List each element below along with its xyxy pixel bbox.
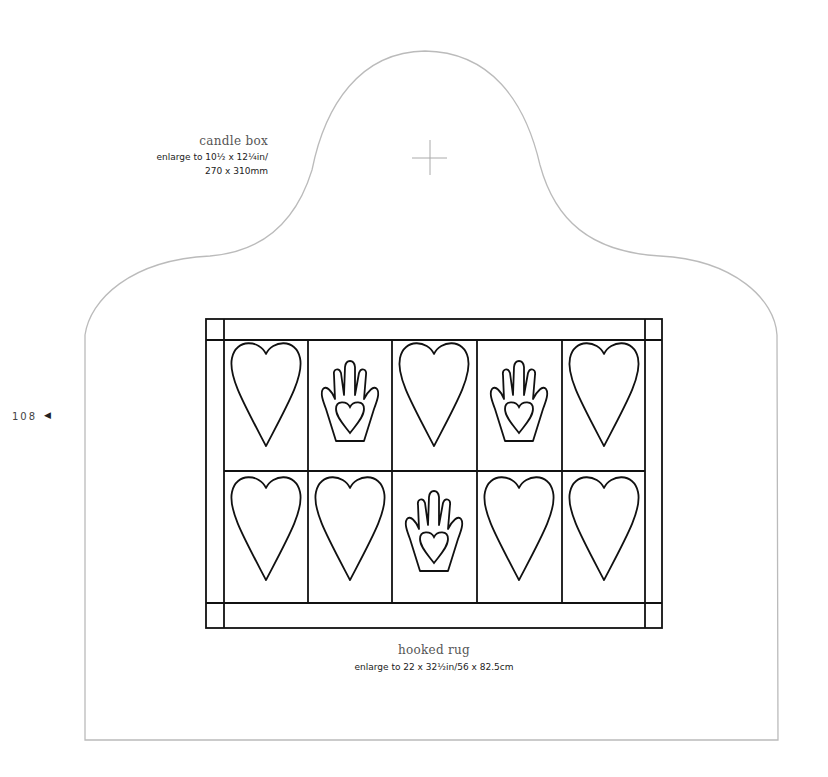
hooked-rug-enlarge: enlarge to 22 x 32½in/56 x 82.5cm xyxy=(314,662,554,672)
candle-box-title: candle box xyxy=(180,134,268,148)
heart-motif xyxy=(399,343,468,446)
heart-motif xyxy=(315,477,384,580)
left-pointer-icon: ◀ xyxy=(44,410,51,420)
heart-motif xyxy=(484,477,553,580)
pattern-page: candle box enlarge to 10½ x 12¼in/ 270 x… xyxy=(0,0,828,777)
heart-motif xyxy=(569,343,638,446)
hooked-rug-title: hooked rug xyxy=(334,643,534,657)
page-number: 108 xyxy=(12,411,37,422)
hand-heart-motif xyxy=(322,361,378,441)
heart-motif xyxy=(231,343,300,446)
rug-outer-border xyxy=(206,319,662,628)
hand-heart-motif xyxy=(406,491,462,571)
candle-box-enlarge-line2: 270 x 310mm xyxy=(100,166,268,176)
heart-motif xyxy=(231,477,300,580)
heart-motif xyxy=(569,477,638,580)
candle-box-enlarge-line1: enlarge to 10½ x 12¼in/ xyxy=(100,152,268,162)
hand-heart-motif xyxy=(491,361,547,441)
hooked-rug-diagram xyxy=(0,0,828,777)
